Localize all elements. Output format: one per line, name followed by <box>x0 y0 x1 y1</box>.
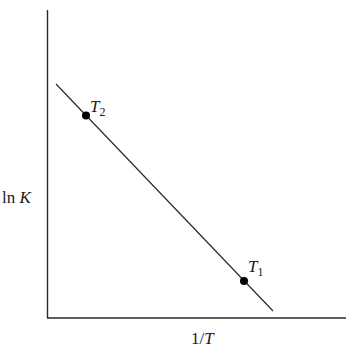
label-t2: T2 <box>90 97 105 119</box>
x-axis-label: 1/T <box>191 329 215 348</box>
y-axis-label: ln K <box>2 188 32 207</box>
label-t1: T1 <box>248 257 263 279</box>
point-t1 <box>240 277 248 285</box>
point-t2 <box>82 112 90 120</box>
chart: T2 T1 ln K 1/T <box>0 0 362 352</box>
